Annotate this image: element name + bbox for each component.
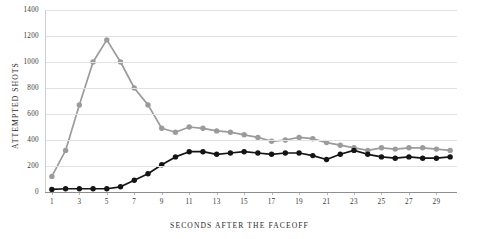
x-tick-label: 19 bbox=[289, 198, 309, 206]
x-tick-label: 29 bbox=[426, 198, 446, 206]
data-point bbox=[63, 148, 68, 153]
x-tick-label: 25 bbox=[371, 198, 391, 206]
x-tick-label: 9 bbox=[152, 198, 172, 206]
data-point bbox=[63, 186, 68, 191]
data-point bbox=[214, 152, 219, 157]
gridline bbox=[45, 166, 457, 167]
data-point bbox=[434, 156, 439, 161]
data-point bbox=[379, 154, 384, 159]
data-point bbox=[434, 146, 439, 151]
data-point bbox=[145, 102, 150, 107]
x-tick-mark bbox=[79, 193, 80, 195]
x-tick-label: 13 bbox=[207, 198, 227, 206]
x-tick-mark bbox=[327, 193, 328, 195]
y-tick-label: 0 bbox=[5, 188, 39, 196]
x-tick-label: 17 bbox=[262, 198, 282, 206]
data-point bbox=[379, 145, 384, 150]
gridline bbox=[45, 114, 457, 115]
data-point bbox=[406, 145, 411, 150]
gridline bbox=[45, 62, 457, 63]
data-point bbox=[420, 145, 425, 150]
data-point bbox=[49, 174, 54, 179]
x-tick-mark bbox=[217, 193, 218, 195]
data-point bbox=[200, 149, 205, 154]
x-tick-mark bbox=[162, 193, 163, 195]
series-line bbox=[52, 40, 450, 177]
data-point bbox=[187, 124, 192, 129]
y-tick-label: 400 bbox=[5, 136, 39, 144]
y-axis-line bbox=[45, 10, 46, 192]
x-axis-title: SECONDS AFTER THE FACEOFF bbox=[0, 221, 479, 230]
data-point bbox=[241, 132, 246, 137]
data-point bbox=[241, 149, 246, 154]
x-tick-label: 3 bbox=[69, 198, 89, 206]
data-point bbox=[393, 156, 398, 161]
data-point bbox=[447, 148, 452, 153]
data-point bbox=[77, 102, 82, 107]
x-tick-label: 7 bbox=[124, 198, 144, 206]
x-tick-label: 1 bbox=[42, 198, 62, 206]
data-point bbox=[338, 143, 343, 148]
x-tick-mark bbox=[436, 193, 437, 195]
series-line bbox=[52, 150, 450, 189]
chart-container: ATTEMPTED SHOTS SECONDS AFTER THE FACEOF… bbox=[0, 0, 479, 239]
data-point bbox=[118, 184, 123, 189]
y-tick-label: 1200 bbox=[5, 32, 39, 40]
gridline bbox=[45, 88, 457, 89]
data-point bbox=[90, 186, 95, 191]
data-point bbox=[104, 186, 109, 191]
data-point bbox=[132, 178, 137, 183]
series-black-series bbox=[49, 148, 453, 192]
y-tick-label: 800 bbox=[5, 84, 39, 92]
x-tick-mark bbox=[189, 193, 190, 195]
x-tick-mark bbox=[381, 193, 382, 195]
y-tick-label: 1400 bbox=[5, 6, 39, 14]
data-point bbox=[406, 154, 411, 159]
y-tick-label: 200 bbox=[5, 162, 39, 170]
x-tick-mark bbox=[244, 193, 245, 195]
x-tick-label: 5 bbox=[97, 198, 117, 206]
data-point bbox=[447, 154, 452, 159]
x-tick-mark bbox=[354, 193, 355, 195]
data-point bbox=[77, 186, 82, 191]
gridline bbox=[45, 140, 457, 141]
y-tick-label: 1000 bbox=[5, 58, 39, 66]
data-point bbox=[324, 157, 329, 162]
x-axis-baseline bbox=[45, 192, 457, 193]
x-tick-mark bbox=[299, 193, 300, 195]
data-point bbox=[159, 126, 164, 131]
x-tick-mark bbox=[134, 193, 135, 195]
x-tick-mark bbox=[272, 193, 273, 195]
data-point bbox=[269, 152, 274, 157]
data-point bbox=[104, 37, 109, 42]
x-tick-mark bbox=[52, 193, 53, 195]
data-point bbox=[296, 150, 301, 155]
data-point bbox=[214, 128, 219, 133]
data-point bbox=[173, 130, 178, 135]
data-point bbox=[338, 152, 343, 157]
x-tick-label: 15 bbox=[234, 198, 254, 206]
y-tick-label: 600 bbox=[5, 110, 39, 118]
x-tick-label: 21 bbox=[317, 198, 337, 206]
x-tick-mark bbox=[107, 193, 108, 195]
x-tick-mark bbox=[409, 193, 410, 195]
data-point bbox=[255, 150, 260, 155]
data-point bbox=[365, 152, 370, 157]
series-layer bbox=[45, 10, 457, 192]
gridline bbox=[45, 36, 457, 37]
x-tick-label: 27 bbox=[399, 198, 419, 206]
data-point bbox=[200, 126, 205, 131]
data-point bbox=[173, 154, 178, 159]
data-point bbox=[393, 146, 398, 151]
gridline bbox=[45, 10, 457, 11]
data-point bbox=[420, 156, 425, 161]
data-point bbox=[228, 150, 233, 155]
data-point bbox=[187, 149, 192, 154]
x-tick-label: 23 bbox=[344, 198, 364, 206]
data-point bbox=[310, 153, 315, 158]
data-point bbox=[351, 148, 356, 153]
plot-area bbox=[45, 10, 457, 192]
data-point bbox=[228, 130, 233, 135]
data-point bbox=[145, 171, 150, 176]
x-tick-label: 11 bbox=[179, 198, 199, 206]
